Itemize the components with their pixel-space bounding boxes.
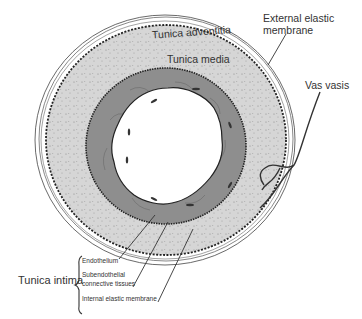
label-vas-vasis: Vas vasis (305, 79, 349, 91)
label-endothelium: Endothelium (82, 257, 118, 264)
label-internal-elastic-membrane: Internal elastic membrane (82, 295, 157, 302)
label-external-elastic-membrane-1: External elastic (263, 12, 334, 24)
label-tunica-intima: Tunica intima (18, 274, 84, 286)
label-external-elastic-membrane-2: membrane (263, 24, 313, 36)
label-subendothelial-1: Subendothelial (82, 271, 126, 278)
label-tunica-media: Tunica media (167, 53, 230, 65)
label-subendothelial-2: connective tissues (82, 280, 136, 287)
artery-diagram: Tunica adventitia Tunica media External … (0, 0, 362, 319)
